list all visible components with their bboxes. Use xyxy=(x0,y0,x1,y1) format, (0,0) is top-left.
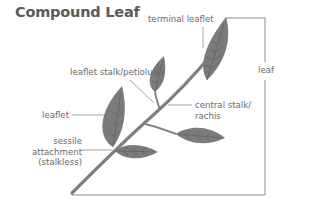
leaflet-right xyxy=(176,128,225,144)
label-sessile-line2: attachment xyxy=(28,147,82,158)
label-central-stalk: central stalk/ rachis xyxy=(195,100,251,121)
label-central-stalk-line2: rachis xyxy=(195,111,251,122)
label-sessile-line1: sessile xyxy=(28,136,82,147)
label-leaflet: leaflet xyxy=(42,110,69,121)
leaflet-left xyxy=(102,86,124,147)
label-leaflet-stalk: leaflet stalk/petiolule xyxy=(70,67,160,78)
label-leaf: leaf xyxy=(258,65,274,76)
label-sessile-attachment: sessile attachment (stalkless) xyxy=(28,136,82,168)
label-central-stalk-line1: central stalk/ xyxy=(195,100,251,111)
label-sessile-line3: (stalkless) xyxy=(28,157,82,168)
leaflet-lower xyxy=(115,145,158,158)
label-terminal-leaflet: terminal leaflet xyxy=(148,14,214,25)
terminal-leaflet xyxy=(203,17,228,80)
